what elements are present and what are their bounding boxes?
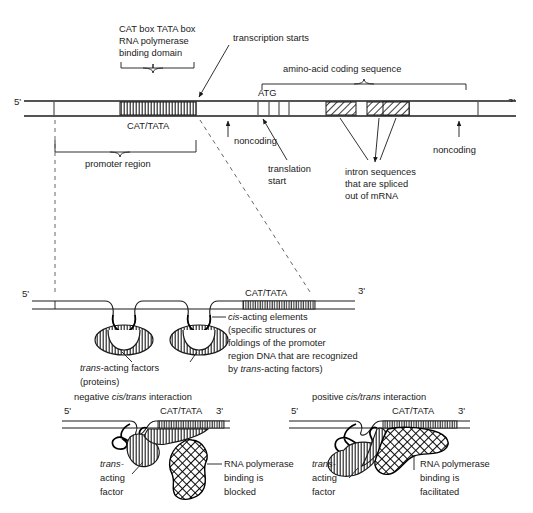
br-result-line3: facilitated [420, 487, 459, 497]
cis5-ital: trans [240, 364, 261, 374]
promoter-region-brace [55, 140, 196, 152]
trans-rest-1: -acting factors [101, 363, 160, 373]
br-trans-line1: trans- [312, 459, 336, 469]
transcription-starts-label: transcription starts [233, 33, 309, 43]
noncoding-left-label: noncoding [234, 136, 277, 146]
negative-heading: negative cis/trans interaction [74, 392, 192, 402]
top-five-prime-label: 5' [14, 96, 21, 107]
cat-tata-domain-line3: binding domain [119, 48, 182, 58]
br-three-prime-label: 3' [458, 405, 465, 416]
figure-canvas: 5' 3' [0, 0, 533, 513]
trans-ital-1: trans [80, 363, 101, 373]
bl-five-prime-label: 5' [64, 405, 71, 416]
cis-ital: cis [228, 312, 240, 322]
bl-three-prime-label: 3' [216, 405, 223, 416]
neg-pre: negative [74, 392, 112, 402]
bottom-right-panel-group: positive cis/trans interaction 5' 3' CAT… [289, 392, 490, 497]
top-panel-group: 5' 3' [14, 24, 516, 292]
cis-acting-line5: by trans-acting factors) [228, 364, 323, 374]
bottom-left-panel-group: negative cis/trans interaction 5' 3' CAT… [62, 392, 294, 499]
br-trans-line2: acting [312, 473, 337, 483]
cis-rest: -acting elements [239, 312, 308, 322]
br-result-line2: binding is [420, 473, 460, 483]
intron-line1: intron sequences [345, 167, 416, 177]
intron-pointer-lines [340, 118, 396, 162]
neg-post: interaction [146, 392, 191, 402]
dna-band [24, 102, 516, 115]
br-cat-tata-label: CAT/TATA [392, 406, 435, 416]
middle-panel-group: 5' 3' CAT/TATA [22, 285, 365, 387]
cat-tata-domain-line1: CAT box TATA box [119, 24, 196, 34]
br-result-line1: RNA polymerase [420, 459, 490, 469]
cis-acting-line4: region DNA that are recognized [228, 351, 358, 361]
mid-five-prime-label: 5' [22, 288, 29, 299]
br-cat-tata-box [383, 421, 457, 428]
brace-notch-1 [143, 68, 163, 73]
intron-box-3 [383, 102, 409, 115]
pos-pre: positive [312, 392, 346, 402]
brace-notch-2 [354, 79, 374, 84]
bl-result-line2: binding is [224, 473, 264, 483]
pos-ital: cis/trans [346, 392, 381, 402]
atg-label: ATG [258, 88, 276, 98]
cis-acting-line1: cis-acting elements [228, 312, 308, 322]
intron-box-1 [326, 102, 356, 115]
cis5-post: -acting factors) [261, 364, 322, 374]
bl-trans-line3: factor [100, 487, 123, 497]
bl-rna-polymerase [170, 440, 208, 500]
bl-trans-line1: trans- [100, 459, 124, 469]
cis5-pre: by [228, 364, 240, 374]
trans-acting-proteins-label: (proteins) [80, 377, 119, 387]
br-trans-line3: factor [312, 487, 335, 497]
promoter-region-label: promoter region [85, 159, 151, 169]
positive-heading: positive cis/trans interaction [312, 392, 426, 402]
cat-tata-domain-brace [121, 62, 194, 68]
trans-acting-factor-2 [170, 315, 228, 355]
bl-cat-tata-box [158, 421, 224, 428]
bl-cat-tata-label: CAT/TATA [160, 406, 203, 416]
bl-trans-line2: acting [100, 473, 125, 483]
noncoding-right-label: noncoding [433, 145, 476, 155]
intron-line3: out of mRNA [345, 191, 399, 201]
br-five-prime-label: 5' [291, 405, 298, 416]
brace-notch-3 [110, 152, 130, 157]
neg-ital: cis/trans [112, 392, 147, 402]
bl-result-line3: blocked [224, 487, 256, 497]
amino-acid-coding-label: amino-acid coding sequence [283, 64, 401, 74]
middle-cat-tata-box [243, 301, 315, 309]
transcription-starts-arrow [199, 45, 229, 97]
amino-acid-coding-brace [262, 84, 466, 90]
mid-three-prime-label: 3' [358, 285, 365, 296]
bl-result-line1: RNA polymerase [224, 459, 294, 469]
cat-tata-box [120, 102, 196, 115]
gene-regulation-figure: 5' 3' [0, 0, 533, 513]
cat-tata-domain-line2: RNA polymerase [119, 36, 189, 46]
intron-line2: that are spliced [345, 179, 408, 189]
trans-acting-factor-1 [95, 315, 153, 355]
middle-cat-tata-label: CAT/TATA [245, 288, 288, 298]
cat-tata-block-label: CAT/TATA [127, 121, 170, 131]
cis-acting-line2: (specific structures or [228, 325, 316, 335]
pos-post: interaction [381, 392, 426, 402]
cis-acting-line3: foldings of the promoter [228, 338, 326, 348]
translation-start-line1: translation [268, 164, 311, 174]
trans-acting-factors-label: trans-acting factors [80, 363, 159, 373]
translation-start-line2: start [268, 176, 286, 186]
